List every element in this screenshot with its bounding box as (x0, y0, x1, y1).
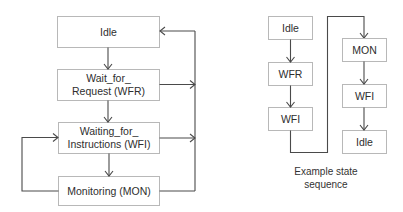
seq-col1-idle-label: Idle (282, 22, 299, 34)
state-mon-label: Monitoring (MON) (67, 185, 150, 197)
seq-col2-idle: Idle (343, 131, 387, 154)
state-wfi-label-line2: Instructions (WFI) (68, 138, 151, 150)
state-wfi-label-line1: Waiting_for_ (80, 125, 139, 137)
seq-col2-mon: MON (343, 39, 387, 62)
seq-col2-wfi-label: WFI (355, 90, 374, 102)
state-idle-label: Idle (100, 26, 117, 38)
seq-col1-wfr: WFR (269, 63, 313, 86)
state-diagram: Idle Wait_for_ Request (WFR) Waiting_for… (0, 0, 403, 212)
arrow-wfr-to-rail (160, 81, 196, 89)
arrow-wfr-to-wfi (104, 101, 112, 123)
seq-col2-wfi: WFI (343, 85, 387, 108)
arrow-wfi-to-rail (160, 134, 196, 142)
arrow-mon-to-wfi (22, 134, 59, 192)
seq-col1-wfi-label: WFI (281, 113, 300, 125)
caption-line1: Example state (294, 166, 358, 177)
seq-arrow-4 (360, 108, 368, 131)
seq-arrow-2 (287, 86, 295, 108)
state-wfr: Wait_for_ Request (WFR) (58, 70, 160, 101)
arrow-wfi-to-mon (105, 154, 113, 177)
caption-line2: sequence (304, 179, 348, 190)
seq-col2-mon-label: MON (352, 44, 377, 56)
seq-arrow-1 (287, 40, 295, 63)
seq-col1-wfi: WFI (269, 108, 313, 131)
state-idle: Idle (58, 17, 160, 48)
seq-col1-wfr-label: WFR (279, 68, 303, 80)
state-wfi: Waiting_for_ Instructions (WFI) (59, 123, 160, 154)
state-wfr-label-line2: Request (WFR) (72, 85, 145, 97)
state-mon: Monitoring (MON) (59, 177, 160, 206)
seq-arrow-3 (360, 62, 368, 85)
seq-col2-idle-label: Idle (356, 136, 373, 148)
return-rail-to-idle (160, 27, 195, 191)
state-wfr-label-line1: Wait_for_ (86, 72, 131, 84)
arrow-idle-to-wfr (104, 48, 112, 70)
seq-col1-idle: Idle (269, 17, 313, 40)
